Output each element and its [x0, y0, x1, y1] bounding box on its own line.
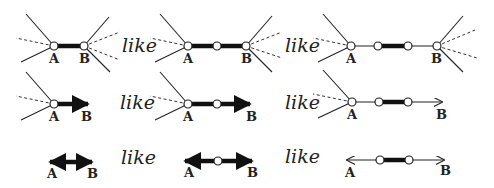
point-a [184, 42, 192, 50]
label-a: A [344, 165, 356, 180]
label-b: B [431, 51, 442, 66]
row-rays: A B like A B like A B [16, 70, 447, 124]
segment-panel-2: A B [150, 14, 282, 72]
label-a: A [48, 109, 60, 124]
line-panel-1: A B [46, 162, 98, 181]
point-inner-2 [405, 156, 413, 164]
point-inner-2 [404, 42, 412, 50]
point-inner-1 [376, 156, 384, 164]
label-b: B [241, 51, 252, 66]
label-a: A [182, 109, 194, 124]
label-a: A [346, 107, 358, 122]
line-panel-2: A B [183, 157, 258, 180]
point-a [50, 42, 58, 50]
label-b: B [87, 166, 98, 181]
point-b [242, 42, 250, 50]
like-text: like [122, 34, 157, 56]
row-segments: A B like A B like [16, 14, 477, 72]
point-mid [214, 157, 222, 165]
geometry-diagram: A B like A B like [0, 0, 494, 188]
like-text: like [121, 146, 156, 168]
like-text: like [285, 145, 320, 167]
point-a [347, 42, 355, 50]
point-inner-1 [374, 42, 382, 50]
ray-panel-2: A B [150, 72, 257, 124]
point-mid [213, 42, 221, 50]
point-a [348, 98, 356, 106]
point-inner-2 [404, 98, 412, 106]
ray-panel-1: A B [16, 72, 92, 124]
label-b: B [440, 163, 451, 178]
label-b: B [81, 109, 92, 124]
line-panel-3: A B [344, 156, 451, 180]
row-lines: A B like A B like A B [46, 145, 451, 181]
label-a: A [48, 51, 60, 66]
label-b: B [79, 51, 90, 66]
segment-panel-3: A B [313, 14, 477, 72]
ray-panel-3: A B [313, 70, 447, 122]
like-text: like [285, 34, 320, 56]
label-a: A [46, 166, 58, 181]
point-mid [213, 100, 221, 108]
point-b [80, 42, 88, 50]
label-b: B [436, 107, 447, 122]
point-a [50, 100, 58, 108]
like-text: like [120, 91, 155, 113]
label-a: A [345, 51, 357, 66]
label-b: B [246, 109, 257, 124]
point-a [184, 100, 192, 108]
point-b [433, 42, 441, 50]
label-a: A [183, 165, 195, 180]
point-inner-1 [375, 98, 383, 106]
like-text: like [285, 91, 320, 113]
label-b: B [247, 165, 258, 180]
label-a: A [182, 51, 194, 66]
segment-panel-1: A B [16, 14, 120, 72]
